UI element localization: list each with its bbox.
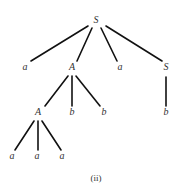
tree-edge (77, 28, 92, 61)
tree-node-a: a (60, 150, 65, 161)
tree-node-a: a (23, 61, 28, 72)
tree-node-b: b (70, 106, 75, 117)
parse-tree: SaAaSAbbbaaa (ii) (0, 0, 179, 184)
tree-edge (76, 76, 100, 106)
tree-node-a: a (10, 150, 15, 161)
tree-edge (15, 121, 34, 150)
tree-node-S: S (94, 14, 99, 25)
tree-node-A: A (34, 106, 42, 117)
tree-node-b: b (102, 106, 107, 117)
parse-tree-diagram: SaAaSAbbbaaa (ii) (0, 0, 179, 184)
tree-node-b: b (164, 106, 169, 117)
tree-node-a: a (35, 150, 40, 161)
tree-edge (45, 76, 68, 106)
tree-node-a: a (118, 61, 123, 72)
tree-edge (101, 28, 117, 61)
tree-edges (15, 26, 166, 150)
tree-edge (42, 121, 61, 150)
tree-node-S: S (164, 61, 169, 72)
figure-caption: (ii) (91, 173, 102, 183)
tree-node-A: A (68, 61, 76, 72)
